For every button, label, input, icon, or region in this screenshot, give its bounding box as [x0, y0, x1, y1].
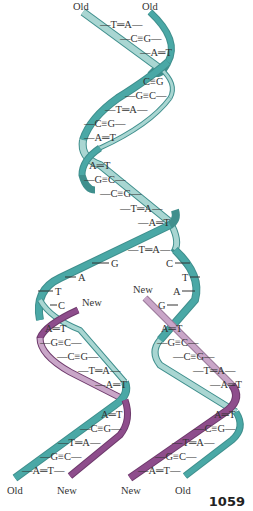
label-new-bottom-1: New	[57, 485, 77, 496]
base-pair: A═T	[214, 409, 236, 420]
base-pair: —T═A—	[57, 437, 101, 448]
base-pair: —T═A—	[171, 437, 215, 448]
base-pair: —G≡C—	[156, 337, 199, 348]
label-old-bottom-1: Old	[7, 485, 24, 496]
base-pair: —T═A—	[99, 19, 143, 30]
base-pair: —C≡G—	[193, 423, 236, 434]
base-pair: —T═A—	[127, 244, 171, 255]
base-pair: —C≡G—	[172, 351, 215, 362]
label-new-left: New	[82, 297, 102, 308]
base-pair: —G≡C—	[39, 451, 82, 462]
label-old-top-right: Old	[142, 1, 159, 12]
base-pair: —G≡C—	[83, 174, 126, 185]
base: A	[173, 286, 181, 297]
dna-replication-diagram: Old Old —T═A— —C≡G— —A═T C≡G —G≡C— —T═A—…	[0, 0, 253, 511]
base-pair: —C≡G—	[56, 351, 99, 362]
base-pair: A═T	[101, 409, 123, 420]
label-old-bottom-2: Old	[175, 485, 192, 496]
base: T	[182, 272, 189, 283]
base-pair: —A═T	[94, 379, 128, 390]
base-pair: —A═T—	[137, 465, 181, 476]
base: A	[78, 272, 86, 283]
base-pair: —C≡G—	[99, 188, 142, 199]
base-pair: —G≡C—	[39, 337, 82, 348]
left-daughter-base-pairs: A═T —G≡C— —C≡G— —T═A— —A═T A═T —C≡G— —T═…	[21, 323, 128, 476]
page-number: 1059	[209, 494, 245, 509]
base-pair: —A═T	[139, 47, 173, 58]
base: T	[55, 286, 62, 297]
base-pair: —C≡G—	[79, 423, 122, 434]
base: C	[58, 300, 65, 311]
base-pair: —T═A—	[77, 365, 121, 376]
parent-base-pairs: —T═A— —C≡G— —A═T C≡G —G≡C— —T═A— —C≡G— —…	[83, 19, 173, 255]
base-pair: —G≡C—	[124, 90, 167, 101]
base: G	[158, 300, 166, 311]
label-new-right: New	[133, 284, 153, 295]
base-pair: —T═A—	[119, 203, 163, 214]
base-pair: A═T	[45, 323, 67, 334]
base-pair: A═T	[89, 160, 111, 171]
label-new-bottom-2: New	[121, 485, 141, 496]
base: C	[166, 258, 173, 269]
base-pair: —A═T	[209, 379, 243, 390]
base-pair: A═T	[161, 323, 183, 334]
base-pair: —A═T—	[21, 465, 65, 476]
base-pair: —C≡G—	[119, 33, 162, 44]
base-pair: —A═T	[137, 217, 171, 228]
base: G	[111, 258, 119, 269]
base-pair: —G≡C—	[154, 451, 197, 462]
base-pair: —T═A—	[192, 365, 236, 376]
base-pair: —C≡G—	[83, 118, 126, 129]
base-pair: C≡G	[143, 76, 164, 87]
base-pair: —A═T	[83, 132, 117, 143]
base-pair: —T═A—	[104, 104, 148, 115]
label-old-top-left: Old	[73, 1, 90, 12]
